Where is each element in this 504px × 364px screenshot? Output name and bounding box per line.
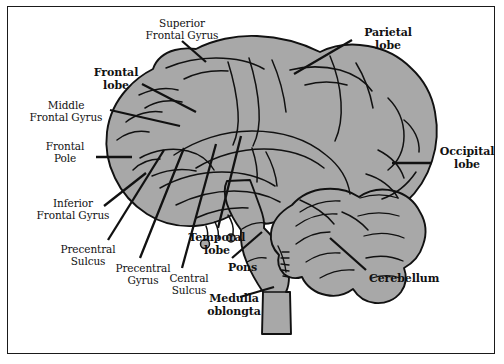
label-frontal-pole: Frontal Pole <box>32 140 98 165</box>
label-cerebellum: Cerebellum <box>369 272 455 285</box>
label-pons: Pons <box>228 261 268 274</box>
cerebellum-shape <box>271 189 426 303</box>
figure-canvas: Superior Frontal Gyrus Frontal lobe Midd… <box>0 0 504 364</box>
label-middle-frontal-gyrus: Middle Frontal Gyrus <box>20 99 112 124</box>
label-temporal-lobe: Temporal lobe <box>180 231 254 257</box>
label-parietal-lobe: Parietal lobe <box>355 26 421 52</box>
label-superior-frontal-gyrus: Superior Frontal Gyrus <box>134 17 230 42</box>
label-medulla-oblongta: Medulla oblongta <box>197 292 271 318</box>
label-frontal-lobe: Frontal lobe <box>84 66 148 92</box>
label-occipital-lobe: Occipital lobe <box>434 145 500 171</box>
label-inferior-frontal-gyrus: Inferior Frontal Gyrus <box>27 197 119 222</box>
